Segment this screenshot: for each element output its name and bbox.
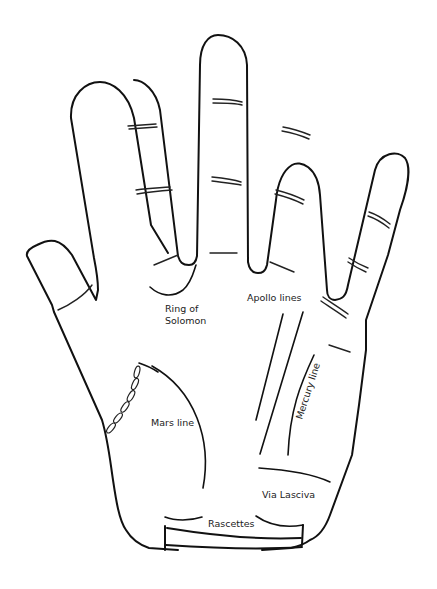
rascette-curve-left	[165, 517, 202, 520]
finger-crease	[275, 190, 304, 204]
finger-crease	[212, 177, 241, 185]
via-lasciva-line	[259, 468, 330, 482]
hand-outline	[27, 35, 408, 550]
finger-crease	[368, 212, 390, 228]
ring-of-solomon-line	[150, 265, 196, 295]
base-mark	[154, 253, 294, 272]
label-mars-line: Mars line	[151, 417, 194, 428]
label-rascettes: Rascettes	[208, 518, 255, 529]
thumb-crease	[58, 285, 92, 310]
label-mercury-line: Mercury line	[293, 361, 322, 420]
finger-crease	[136, 187, 172, 194]
label-ring-of-solomon-2: Solomon	[165, 315, 206, 326]
wrist-band-line-2	[166, 545, 302, 548]
rascette-curve-right	[256, 516, 303, 526]
label-via-lasciva: Via Lasciva	[262, 489, 315, 500]
wrist-band-line-1	[167, 528, 301, 538]
palm-diagram: Ring of Solomon Apollo lines Mercury lin…	[0, 0, 437, 589]
chained-life-line	[105, 366, 141, 435]
finger-crease	[213, 99, 242, 105]
apollo-line	[256, 314, 283, 420]
base-mark	[329, 345, 350, 352]
finger-crease	[282, 127, 310, 139]
apollo-line	[260, 312, 303, 454]
finger-crease	[128, 124, 157, 129]
label-ring-of-solomon-1: Ring of	[165, 303, 199, 314]
label-apollo-lines: Apollo lines	[247, 292, 302, 303]
